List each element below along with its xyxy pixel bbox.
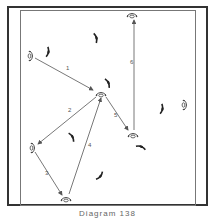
defender-player-icon: [105, 78, 112, 88]
pass-arrow-2: [38, 97, 96, 144]
pass-arrow-1: [35, 58, 93, 90]
pass-label: 1: [66, 65, 70, 71]
attacker-player-icon: [28, 51, 32, 62]
pass-label: 5: [114, 112, 118, 118]
attacker-player-icon: [96, 93, 107, 97]
diagram-caption: Diagram 138: [0, 209, 215, 218]
defender-player-icon: [160, 104, 164, 114]
defender-player-icon: [136, 144, 146, 150]
pass-label: 6: [130, 59, 134, 65]
attacker-player-icon: [127, 14, 138, 18]
pass-lines: 123456: [35, 20, 134, 195]
drill-diagram: 123456: [0, 0, 215, 218]
defenders: [46, 33, 164, 181]
defender-player-icon: [69, 132, 76, 142]
attacker-player-icon: [30, 143, 34, 154]
defender-player-icon: [94, 33, 99, 43]
attacker-player-icon: [61, 198, 72, 202]
attacker-player-icon: [182, 100, 186, 111]
attacker-player-icon: [128, 134, 139, 138]
pass-arrow-3: [35, 152, 62, 195]
defender-player-icon: [46, 47, 50, 57]
pass-label: 4: [88, 142, 92, 148]
pass-label: 2: [68, 107, 72, 113]
defender-player-icon: [96, 172, 104, 181]
